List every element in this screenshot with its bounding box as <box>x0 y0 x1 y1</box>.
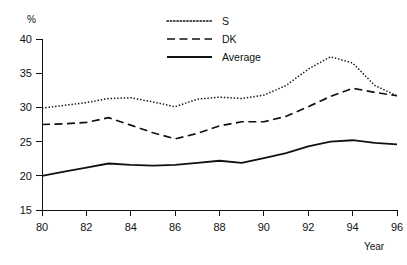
series-line-dk <box>42 88 397 139</box>
legend-label-dk: DK <box>222 33 237 45</box>
y-tick-label: 40 <box>20 33 32 45</box>
y-axis-ticks: 152025303540 <box>20 33 42 216</box>
axis-frame <box>42 39 397 210</box>
chart-legend: SDKAverage <box>167 15 261 63</box>
series-line-s <box>42 57 397 108</box>
y-axis-unit-text: % <box>27 14 36 25</box>
y-tick-label: 20 <box>20 170 32 182</box>
x-tick-label: 88 <box>213 221 225 233</box>
series-line-average <box>42 140 397 176</box>
y-axis-unit-label: % <box>27 14 36 25</box>
x-tick-label: 90 <box>258 221 270 233</box>
y-tick-label: 30 <box>20 101 32 113</box>
x-tick-label: 92 <box>302 221 314 233</box>
x-tick-label: 96 <box>391 221 403 233</box>
x-axis-ticks: 808284868890929496 <box>36 210 403 233</box>
x-axis-title-text: Year <box>364 241 385 252</box>
chart-canvas: % 152025303540 808284868890929496 SDKAve… <box>0 0 407 265</box>
x-tick-label: 86 <box>169 221 181 233</box>
legend-label-average: Average <box>222 51 261 63</box>
x-tick-label: 82 <box>80 221 92 233</box>
x-tick-label: 80 <box>36 221 48 233</box>
y-tick-label: 25 <box>20 136 32 148</box>
line-chart: % 152025303540 808284868890929496 SDKAve… <box>0 0 407 265</box>
legend-label-s: S <box>222 15 229 27</box>
x-tick-label: 94 <box>347 221 359 233</box>
x-tick-label: 84 <box>125 221 137 233</box>
y-tick-label: 15 <box>20 204 32 216</box>
y-tick-label: 35 <box>20 67 32 79</box>
series-lines <box>42 57 397 176</box>
x-axis-title: Year <box>364 241 385 252</box>
